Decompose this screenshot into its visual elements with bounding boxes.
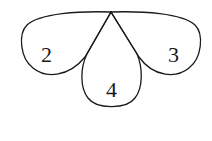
right-lobe-label: 3 (168, 42, 179, 67)
right-lobe (111, 12, 201, 75)
bottom-lobe-label: 4 (106, 77, 117, 102)
left-lobe (21, 12, 111, 75)
lobes-diagram: 2 4 3 (0, 0, 212, 141)
left-lobe-label: 2 (41, 42, 52, 67)
